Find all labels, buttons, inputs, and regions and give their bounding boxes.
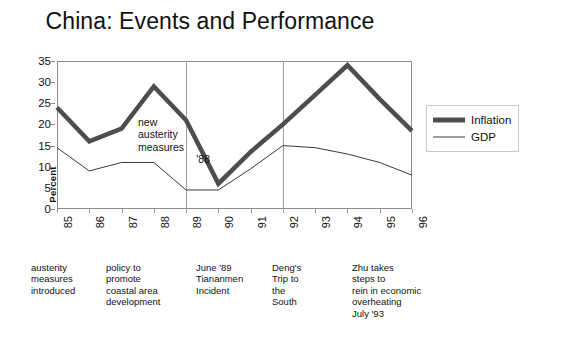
y-tick-mark	[51, 124, 55, 125]
y-tick-label: 15	[23, 140, 51, 152]
event-note-line: South	[272, 296, 297, 307]
x-tick-mark	[89, 209, 90, 213]
event-note-line: coastal area	[106, 285, 158, 296]
x-tick-label: 88	[159, 216, 171, 228]
event-note-line: Zhu takes	[352, 262, 394, 273]
event-note: June '89TiananmenIncident	[196, 262, 268, 296]
x-tick-label: 91	[256, 216, 268, 228]
y-axis-ticks: 05101520253035	[23, 61, 51, 209]
x-tick-mark	[283, 209, 284, 213]
y-tick-label: 10	[23, 161, 51, 173]
x-tick-label: 92	[288, 216, 300, 228]
legend: Inflation GDP	[426, 105, 519, 152]
y-tick-mark	[51, 82, 55, 83]
y-tick-label: 0	[23, 203, 51, 215]
event-note-line: Incident	[196, 285, 229, 296]
event-note-line: austerity	[31, 262, 67, 273]
x-tick-label: 96	[417, 216, 429, 228]
event-note-line: Tiananmen	[196, 273, 243, 284]
x-tick-mark	[154, 209, 155, 213]
y-tick-label: 35	[23, 55, 51, 67]
x-tick-label: 93	[320, 216, 332, 228]
y-tick-mark	[51, 146, 55, 147]
x-tick-label: 90	[223, 216, 235, 228]
x-tick-mark	[218, 209, 219, 213]
series-canvas	[57, 61, 412, 209]
y-tick-mark	[51, 103, 55, 104]
event-note-line: the	[272, 285, 285, 296]
x-tick-label: 86	[94, 216, 106, 228]
chart-page: China: Events and Performance Percent 05…	[0, 0, 565, 339]
y-tick-mark	[51, 61, 55, 62]
y-tick-label: 20	[23, 118, 51, 130]
event-note: Zhu takessteps torein in economicoverhea…	[352, 262, 444, 319]
event-note-line: introduced	[31, 285, 75, 296]
y-tick-label: 25	[23, 97, 51, 109]
event-note-line: promote	[106, 273, 141, 284]
legend-label-inflation: Inflation	[471, 114, 511, 126]
event-note-line: steps to	[352, 273, 385, 284]
x-tick-mark	[380, 209, 381, 213]
event-note-line: Trip to	[272, 273, 299, 284]
y-tick-mark	[51, 188, 55, 189]
inplot-annotation: new austerity measures '88	[138, 116, 210, 166]
event-note-line: overheating	[352, 296, 402, 307]
x-tick-mark	[412, 209, 413, 213]
y-tick-mark	[51, 209, 55, 210]
x-tick-label: 85	[62, 216, 74, 228]
annotation-year: '88	[138, 153, 210, 165]
thin-line-swatch-icon	[433, 131, 465, 143]
x-tick-mark	[315, 209, 316, 213]
y-tick-label: 30	[23, 76, 51, 88]
x-tick-mark	[186, 209, 187, 213]
event-note-line: Deng's	[272, 262, 301, 273]
x-tick-label: 87	[127, 216, 139, 228]
event-note-line: development	[106, 296, 160, 307]
x-tick-label: 94	[352, 216, 364, 228]
x-tick-label: 89	[191, 216, 203, 228]
thick-line-swatch-icon	[433, 114, 465, 126]
x-tick-label: 95	[385, 216, 397, 228]
event-note: policy topromotecoastal areadevelopment	[106, 262, 182, 308]
page-title: China: Events and Performance	[0, 8, 420, 35]
annotation-line-3: measures	[138, 141, 184, 153]
event-note: Deng'sTrip totheSouth	[272, 262, 334, 308]
annotation-line-2: austerity	[138, 128, 178, 140]
legend-item-inflation: Inflation	[433, 111, 511, 128]
y-tick-mark	[51, 167, 55, 168]
x-tick-mark	[122, 209, 123, 213]
x-tick-mark	[347, 209, 348, 213]
annotation-line-1: new	[138, 116, 157, 128]
event-note-line: measures	[31, 273, 73, 284]
x-tick-mark	[57, 209, 58, 213]
x-tick-mark	[251, 209, 252, 213]
legend-item-gdp: GDP	[433, 128, 511, 145]
event-note: austeritymeasuresintroduced	[31, 262, 101, 296]
legend-label-gdp: GDP	[471, 131, 496, 143]
event-note-line: June '89	[196, 262, 232, 273]
x-axis-ticks: 858687888990919293949596	[57, 209, 412, 255]
event-note-line: July '93	[352, 308, 384, 319]
event-annotations: austeritymeasuresintroducedpolicy toprom…	[0, 262, 565, 339]
plot-area: Percent 05101520253035 new austerity mea…	[57, 61, 412, 209]
event-note-line: rein in economic	[352, 285, 421, 296]
event-note-line: policy to	[106, 262, 141, 273]
y-tick-label: 5	[23, 182, 51, 194]
